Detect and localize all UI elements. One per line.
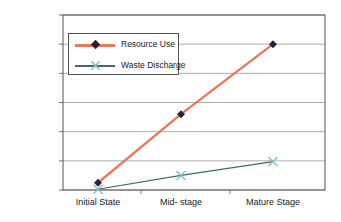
line-chart: 020000040000060000080000010000001200000 …: [0, 0, 341, 222]
x-axis-tick-label: Initial State: [76, 198, 121, 207]
x-axis-tick-label: Mature Stage: [246, 198, 300, 207]
x-axis-tick-label: Mid- stage: [160, 198, 202, 207]
x-axis-tick-labels: Initial StateMid- stageMature Stage: [0, 0, 341, 222]
